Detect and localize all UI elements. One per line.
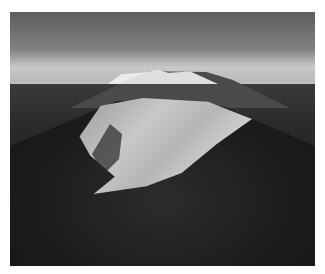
aerial-photo — [10, 12, 315, 266]
